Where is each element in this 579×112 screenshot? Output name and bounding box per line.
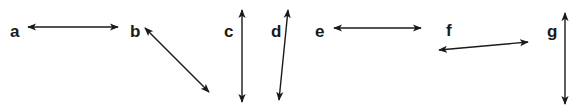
arrow-label: g	[547, 22, 557, 41]
arrow-label: a	[10, 22, 20, 41]
arrow-diagram: abcdefg	[0, 0, 579, 112]
arrow-label: f	[446, 21, 452, 40]
arrow-label: b	[130, 22, 140, 41]
arrow-c: c	[224, 10, 242, 102]
arrow-label: c	[224, 22, 233, 41]
arrow-label: e	[315, 22, 324, 41]
arrow-e: e	[315, 22, 421, 41]
diagram-canvas: abcdefg	[0, 0, 579, 112]
arrow-b: b	[130, 22, 209, 92]
double-arrow-line	[145, 28, 209, 92]
double-arrow-line	[439, 42, 528, 50]
arrow-g: g	[547, 13, 565, 104]
arrow-label: d	[271, 22, 281, 41]
arrow-a: a	[10, 22, 118, 41]
arrow-d: d	[271, 10, 288, 100]
arrow-f: f	[439, 21, 528, 50]
